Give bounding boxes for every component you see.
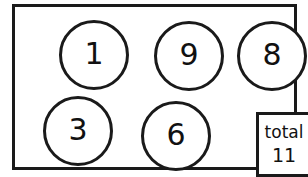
worksheet-canvas: 1 9 8 3 6 total 11 <box>0 0 308 177</box>
number-circle-6[interactable]: 6 <box>141 101 211 171</box>
number-circle-8[interactable]: 8 <box>237 21 307 91</box>
circle-digit: 6 <box>166 120 185 150</box>
circle-digit: 3 <box>68 115 87 145</box>
number-circle-9[interactable]: 9 <box>154 21 224 91</box>
circle-digit: 8 <box>262 40 281 70</box>
total-value: 11 <box>272 145 296 166</box>
circle-digit: 9 <box>179 40 198 70</box>
total-label: total <box>265 124 304 142</box>
number-circle-3[interactable]: 3 <box>43 96 113 166</box>
number-circle-1[interactable]: 1 <box>59 20 129 90</box>
circle-digit: 1 <box>84 39 103 69</box>
outer-frame: 1 9 8 3 6 total 11 <box>12 4 297 170</box>
total-box[interactable]: total 11 <box>256 112 308 177</box>
